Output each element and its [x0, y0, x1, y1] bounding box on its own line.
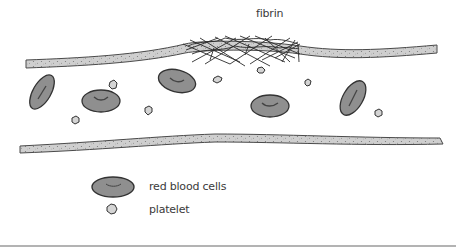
blood-vessel-diagram — [0, 0, 456, 248]
fibrin-label: fibrin — [256, 7, 283, 20]
platelet-icon — [72, 116, 79, 124]
legend-label-platelet: platelet — [149, 203, 189, 216]
red-blood-cell-icon — [156, 65, 198, 96]
platelet-icon — [145, 106, 152, 115]
legend-red-blood-cell-icon — [92, 177, 134, 197]
platelet-icon — [109, 80, 117, 89]
platelet-icon — [213, 76, 222, 83]
platelet-icon — [375, 109, 382, 117]
red-blood-cell-icon — [82, 90, 120, 112]
red-blood-cell-icon — [335, 77, 371, 120]
platelet-icon — [257, 67, 265, 73]
platelets — [72, 67, 382, 124]
lower-vessel-wall — [20, 134, 443, 153]
red-blood-cell-icon — [25, 71, 60, 113]
platelet-icon — [305, 79, 311, 86]
red-blood-cell-icon — [251, 95, 289, 117]
legend-platelet-icon — [107, 204, 117, 214]
legend-label-red-blood-cells: red blood cells — [149, 180, 226, 193]
red-blood-cells — [25, 65, 371, 119]
